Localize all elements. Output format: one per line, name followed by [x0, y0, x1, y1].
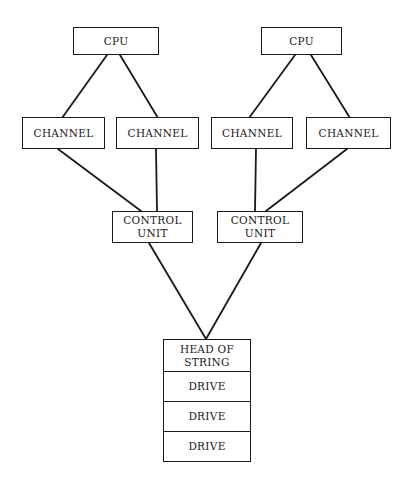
channel-box-4: CHANNEL [306, 117, 391, 149]
channel-label: CHANNEL [319, 127, 379, 140]
drive-string-stack: HEAD OF STRING DRIVE DRIVE DRIVE [163, 339, 251, 462]
control-unit-label: CONTROL UNIT [231, 214, 289, 240]
link-cpu-right-channel-3 [249, 55, 295, 118]
link-channel-2-control-unit-left [156, 149, 157, 211]
cpu-box-right: CPU [261, 27, 342, 55]
io-configuration-diagram: CPU CPU CHANNEL CHANNEL CHANNEL CHANNEL … [0, 0, 410, 490]
channel-box-2: CHANNEL [116, 117, 199, 149]
channel-label: CHANNEL [34, 127, 94, 140]
channel-box-1: CHANNEL [22, 117, 105, 149]
control-unit-box-left: CONTROL UNIT [112, 211, 193, 243]
drive-label: DRIVE [188, 440, 225, 453]
link-channel-1-control-unit-left [58, 149, 141, 211]
channel-label: CHANNEL [222, 127, 282, 140]
control-unit-label: CONTROL UNIT [123, 214, 181, 240]
head-of-string-cell: HEAD OF STRING [164, 340, 250, 371]
head-of-string-label: HEAD OF STRING [180, 343, 234, 369]
cpu-label: CPU [104, 35, 129, 48]
link-channel-3-control-unit-right [255, 149, 256, 211]
drive-cell: DRIVE [164, 401, 250, 431]
cpu-box-left: CPU [73, 27, 159, 55]
link-cpu-left-channel-2 [120, 55, 158, 118]
link-channel-4-control-unit-right [266, 149, 347, 211]
control-unit-box-right: CONTROL UNIT [217, 211, 303, 243]
channel-box-3: CHANNEL [211, 117, 293, 149]
link-control-unit-right-string [206, 243, 261, 339]
drive-label: DRIVE [188, 380, 225, 393]
drive-cell: DRIVE [164, 431, 250, 461]
link-cpu-right-channel-4 [311, 55, 350, 118]
link-cpu-left-channel-1 [62, 55, 107, 118]
link-control-unit-left-string [149, 243, 206, 339]
drive-label: DRIVE [188, 410, 225, 423]
drive-cell: DRIVE [164, 371, 250, 401]
cpu-label: CPU [289, 35, 314, 48]
channel-label: CHANNEL [128, 127, 188, 140]
